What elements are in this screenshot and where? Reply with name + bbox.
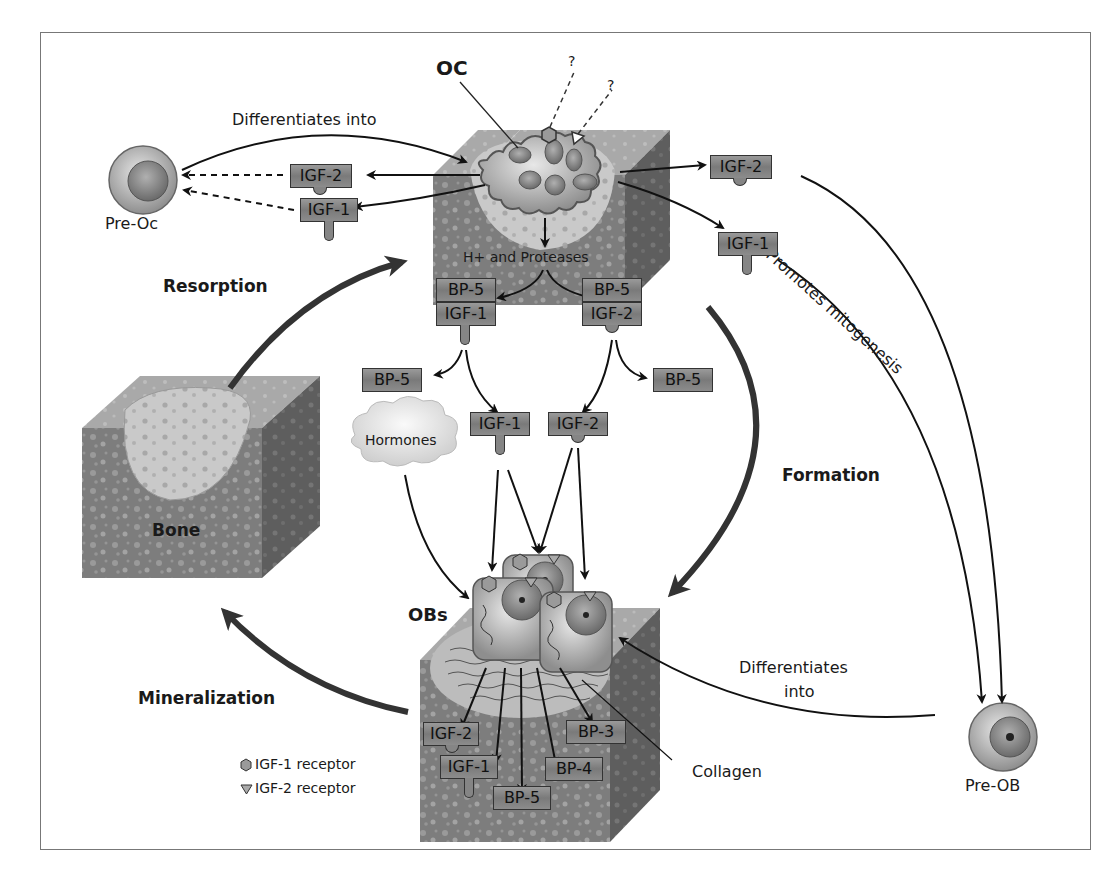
- into-label: into: [784, 682, 815, 701]
- tag-igf2-matrix-right: IGF-2: [582, 302, 642, 326]
- pre-oc-cell: [109, 146, 177, 214]
- pre-ob-cell: [969, 703, 1037, 771]
- tag-bp5-released-right: BP-5: [653, 368, 713, 392]
- arrow-formation: [672, 307, 756, 593]
- osteoblast-cells: [473, 554, 612, 672]
- tag-bp5-matrix-left: BP-5: [436, 278, 496, 302]
- legend-igf1-receptor-label: IGF-1 receptor: [255, 756, 356, 772]
- h-proteases-label: H+ and Proteases: [463, 249, 589, 265]
- diagram-graphics: [0, 0, 1112, 877]
- tag-igf1-oc-left: IGF-1: [300, 198, 358, 222]
- collagen-label: Collagen: [692, 762, 762, 781]
- legend-igf2-receptor-icon: [241, 785, 252, 794]
- unknown-ligand-1: ?: [568, 53, 575, 69]
- tag-bp5-matrix-right: BP-5: [582, 278, 642, 302]
- tag-igf2-oc-left: IGF-2: [290, 164, 352, 188]
- legend-igf1-receptor-icon: [241, 759, 251, 771]
- tag-bp3-ob: BP-3: [566, 720, 626, 744]
- tag-bp4-ob: BP-4: [545, 757, 603, 781]
- differentiates-label: Differentiates: [739, 658, 848, 677]
- unknown-ligand-2: ?: [607, 77, 614, 93]
- obs-label: OBs: [408, 604, 448, 625]
- tag-bp5-ob: BP-5: [493, 786, 551, 810]
- tag-igf1-oc-right: IGF-1: [718, 232, 778, 256]
- differentiates-into-top-label: Differentiates into: [232, 110, 377, 129]
- mineralization-label: Mineralization: [138, 688, 275, 708]
- pre-oc-label: Pre-Oc: [105, 214, 158, 233]
- bone-cube: [82, 376, 320, 578]
- tag-igf2-oc-right: IGF-2: [710, 155, 772, 179]
- hormones-label: Hormones: [365, 432, 437, 448]
- pre-ob-label: Pre-OB: [965, 776, 1020, 795]
- formation-label: Formation: [782, 465, 880, 485]
- legend-igf2-receptor-label: IGF-2 receptor: [255, 780, 356, 796]
- tag-igf2-ob: IGF-2: [423, 722, 479, 746]
- tag-bp5-released-left: BP-5: [362, 368, 422, 392]
- oc-label: OC: [436, 56, 468, 80]
- igf1-receptor-icon: [542, 127, 556, 143]
- tag-igf1-free: IGF-1: [470, 412, 530, 436]
- tag-igf1-ob: IGF-1: [440, 755, 498, 779]
- resorption-label: Resorption: [163, 276, 268, 296]
- tag-igf1-matrix-left: IGF-1: [436, 302, 496, 326]
- bone-label: Bone: [152, 520, 200, 540]
- bone-remodeling-diagram: OC ? ? Differentiates into Pre-Oc H+ and…: [0, 0, 1112, 877]
- tag-igf2-free: IGF-2: [548, 412, 608, 436]
